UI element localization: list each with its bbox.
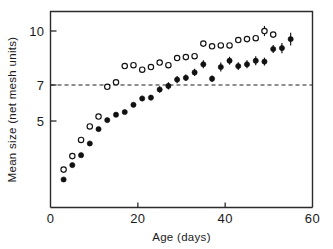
data-point-open-circles: [70, 153, 75, 158]
data-point-filled-circles: [201, 62, 206, 67]
data-point-filled-circles: [105, 118, 110, 123]
data-point-filled-circles: [192, 70, 197, 75]
data-point-filled-circles: [279, 46, 284, 51]
data-point-filled-circles: [61, 177, 66, 182]
data-point-open-circles: [113, 80, 118, 85]
data-point-filled-circles: [271, 46, 276, 51]
data-point-open-circles: [105, 84, 110, 89]
x-tick-label-60: 60: [305, 211, 320, 226]
data-point-open-circles: [236, 37, 241, 42]
data-point-filled-circles: [183, 75, 188, 80]
data-point-open-circles: [61, 167, 66, 172]
data-point-open-circles: [271, 32, 276, 37]
x-tick-label-20: 20: [130, 211, 145, 226]
data-point-filled-circles: [262, 59, 267, 64]
x-tick-label-40: 40: [218, 211, 233, 226]
x-axis-title: Age (days): [152, 231, 211, 243]
y-tick-label-10: 10: [29, 24, 44, 39]
data-point-open-circles: [148, 64, 153, 69]
axis-title-layer: Age (days)Mean size (net mesh units): [6, 37, 211, 243]
data-point-open-circles: [140, 67, 145, 72]
data-point-open-circles: [227, 43, 232, 48]
data-point-open-circles: [244, 36, 249, 41]
data-point-filled-circles: [175, 77, 180, 82]
figure-container: 02040605710 Age (days)Mean size (net mes…: [0, 0, 333, 249]
data-point-filled-circles: [288, 37, 293, 42]
data-point-filled-circles: [218, 64, 223, 69]
tick-label-layer: 02040605710: [29, 24, 320, 226]
data-point-filled-circles: [96, 127, 101, 132]
data-point-open-circles: [218, 43, 223, 48]
data-point-filled-circles: [236, 64, 241, 69]
data-point-open-circles: [166, 62, 171, 67]
y-tick-label-5: 5: [37, 114, 45, 129]
data-point-open-circles: [201, 41, 206, 46]
axes-layer: [51, 12, 313, 208]
data-point-open-circles: [183, 54, 188, 59]
data-point-filled-circles: [148, 95, 153, 100]
data-point-filled-circles: [140, 96, 145, 101]
data-point-filled-circles: [157, 87, 162, 92]
data-point-filled-circles: [166, 83, 171, 88]
data-point-open-circles: [192, 54, 197, 59]
data-point-open-circles: [78, 137, 83, 142]
data-point-open-circles: [87, 124, 92, 129]
data-point-filled-circles: [87, 141, 92, 146]
data-point-layer: [61, 26, 293, 182]
data-point-open-circles: [131, 62, 136, 67]
data-point-open-circles: [253, 36, 258, 41]
series-open-circles: [61, 26, 276, 172]
data-point-open-circles: [157, 60, 162, 65]
data-point-open-circles: [209, 44, 214, 49]
data-point-filled-circles: [209, 76, 214, 81]
plot-frame: [51, 12, 313, 208]
data-point-open-circles: [262, 28, 267, 33]
data-point-filled-circles: [227, 58, 232, 63]
data-point-filled-circles: [113, 112, 118, 117]
data-point-filled-circles: [122, 109, 127, 114]
data-point-open-circles: [96, 114, 101, 119]
data-point-open-circles: [122, 63, 127, 68]
data-point-filled-circles: [78, 153, 83, 158]
x-tick-label-0: 0: [47, 211, 55, 226]
y-tick-label-7: 7: [37, 78, 45, 93]
data-point-open-circles: [174, 55, 179, 60]
data-point-filled-circles: [244, 62, 249, 67]
scatter-plot: 02040605710 Age (days)Mean size (net mes…: [0, 0, 333, 249]
data-point-filled-circles: [70, 163, 75, 168]
y-axis-title: Mean size (net mesh units): [6, 37, 18, 183]
data-point-filled-circles: [131, 102, 136, 107]
data-point-filled-circles: [253, 58, 258, 63]
